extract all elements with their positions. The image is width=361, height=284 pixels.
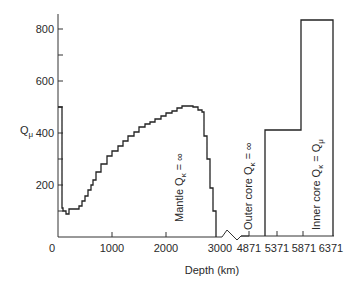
- x-tick-0: 0: [49, 242, 55, 254]
- x-tick-4871: 4871: [237, 242, 261, 254]
- outer-core-label: Outer core Qκ = ∞: [242, 142, 257, 230]
- y-tick-800: 800: [36, 23, 54, 35]
- q-depth-chart: 800 600 400 200 Qμ 0 1000 2000 3000 4871…: [0, 0, 361, 284]
- x-tick-6371: 6371: [319, 242, 343, 254]
- x-tick-5371: 5371: [265, 242, 289, 254]
- mantle-label: Mantle Qκ = ∞: [173, 153, 188, 222]
- x-tick-5871: 5871: [292, 242, 316, 254]
- y-tick-200: 200: [36, 179, 54, 191]
- y-tick-600: 600: [36, 75, 54, 87]
- x-axis-title: Depth (km): [185, 264, 239, 276]
- inner-core-label: Inner core Qκ = Qμ: [310, 139, 325, 230]
- y-tick-400: 400: [36, 127, 54, 139]
- y-axis-title: Qμ: [20, 124, 34, 139]
- inner-core-q-curve: [265, 20, 333, 236]
- x-tick-3000: 3000: [208, 242, 232, 254]
- x-axis-break: [222, 230, 249, 240]
- x-tick-2000: 2000: [154, 242, 178, 254]
- x-tick-1000: 1000: [100, 242, 124, 254]
- mantle-q-curve: [58, 106, 216, 237]
